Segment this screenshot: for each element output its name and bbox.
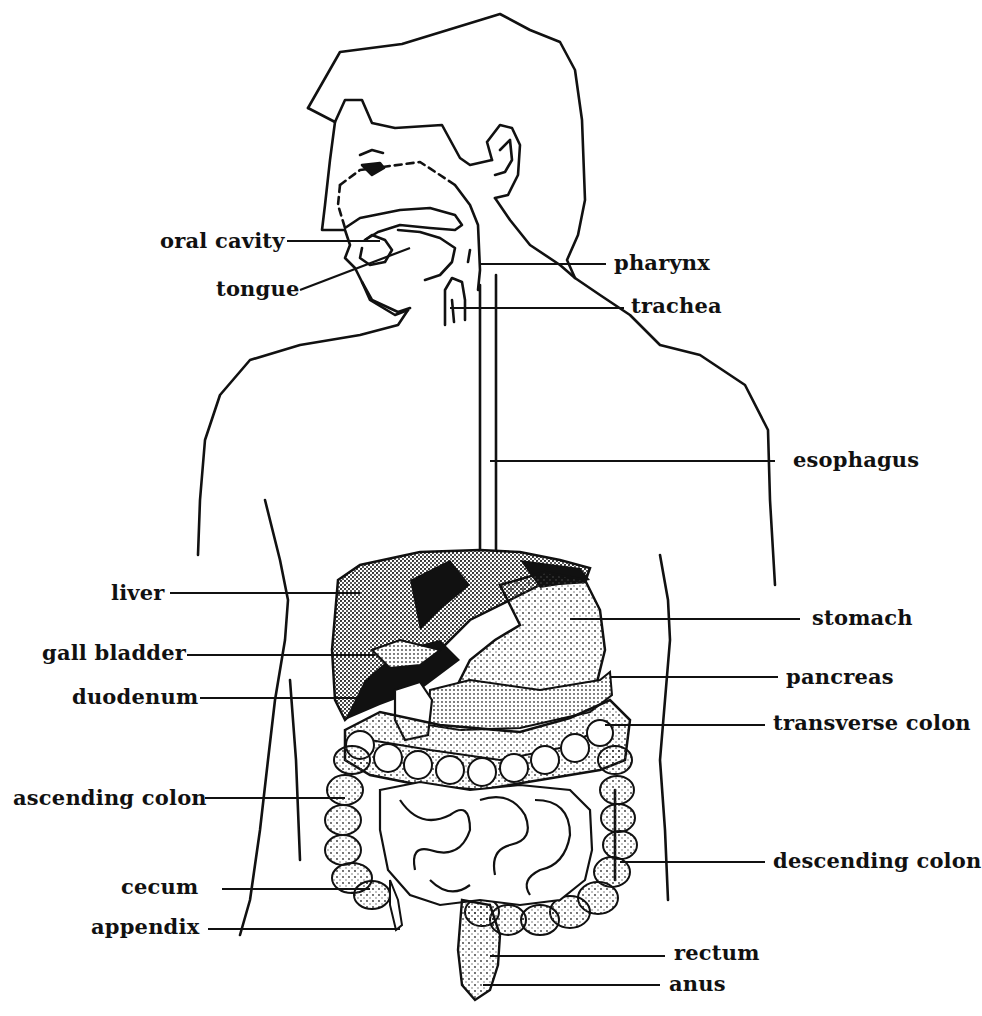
trachea-tube — [445, 278, 465, 325]
label-stomach: stomach — [812, 607, 913, 628]
label-ascending-colon: ascending colon — [13, 787, 207, 808]
pharynx-wall — [455, 185, 480, 290]
label-anus: anus — [669, 973, 726, 994]
small-intestine — [380, 782, 592, 905]
label-descending-colon: descending colon — [773, 850, 981, 871]
label-pharynx: pharynx — [614, 252, 710, 273]
label-cecum: cecum — [121, 876, 198, 897]
ear — [487, 125, 520, 198]
label-duodenum: duodenum — [72, 686, 198, 707]
label-appendix: appendix — [91, 916, 199, 937]
torso-right — [660, 555, 670, 900]
face-profile — [308, 100, 492, 165]
label-liver: liver — [111, 582, 165, 603]
label-pancreas: pancreas — [786, 666, 894, 687]
label-rectum: rectum — [674, 942, 760, 963]
appendix-shape — [390, 880, 402, 930]
label-tongue: tongue — [216, 278, 300, 299]
nasal-cavity-dashed — [340, 162, 455, 185]
label-trachea: trachea — [631, 295, 722, 316]
label-gall-bladder: gall bladder — [42, 642, 186, 663]
leader-tongue — [300, 248, 410, 290]
label-esophagus: esophagus — [793, 449, 919, 470]
left-shoulder — [198, 310, 408, 555]
digestive-system-diagram: oral cavity tongue liver gall bladder du… — [0, 0, 982, 1016]
label-oral-cavity: oral cavity — [160, 230, 285, 251]
eye-brow — [360, 150, 383, 155]
label-transverse-colon: transverse colon — [773, 712, 971, 733]
torso-left — [240, 500, 288, 935]
